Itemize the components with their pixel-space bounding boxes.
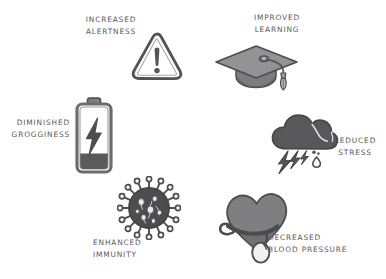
label-line: INCREASED xyxy=(78,14,144,26)
virus-icon xyxy=(117,176,181,244)
label-line: DIMINISHED xyxy=(8,117,70,129)
heart-blood-pressure-cuff-icon xyxy=(219,184,293,268)
label-line: LEARNING xyxy=(243,24,311,36)
label-line: IMPROVED xyxy=(243,12,311,24)
infographic-canvas: INCREASED ALERTNESS IMPROVED LEARNING xyxy=(0,0,386,279)
graduation-cap-icon xyxy=(214,38,302,104)
label-diminished-grogginess: DIMINISHED GROGGINESS xyxy=(8,117,70,141)
battery-charging-icon xyxy=(70,96,118,182)
storm-cloud-icon xyxy=(268,108,340,180)
label-improved-learning: IMPROVED LEARNING xyxy=(243,12,311,36)
warning-triangle-icon xyxy=(129,29,185,89)
label-line: IMMUNITY xyxy=(93,249,163,261)
label-line: GROGGINESS xyxy=(8,129,70,141)
